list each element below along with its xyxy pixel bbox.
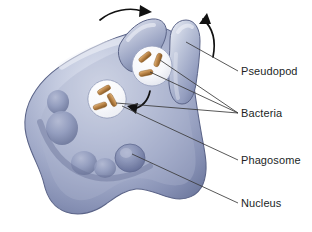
phagocytosis-diagram: Pseudopod Bacteria Phagosome Nucleus [0, 0, 312, 232]
arrow-pseudopod-left [100, 5, 152, 20]
pseudopod-right [169, 20, 200, 104]
label-phagosome: Phagosome [241, 155, 301, 166]
engulfment-vesicle [132, 46, 172, 86]
phagosome-vesicle [88, 80, 126, 118]
label-nucleus: Nucleus [241, 198, 281, 209]
nucleus-highlight [120, 148, 132, 158]
membrane-lobe-1 [47, 90, 69, 114]
label-bacteria: Bacteria [241, 108, 282, 119]
label-pseudopod: Pseudopod [241, 66, 298, 77]
